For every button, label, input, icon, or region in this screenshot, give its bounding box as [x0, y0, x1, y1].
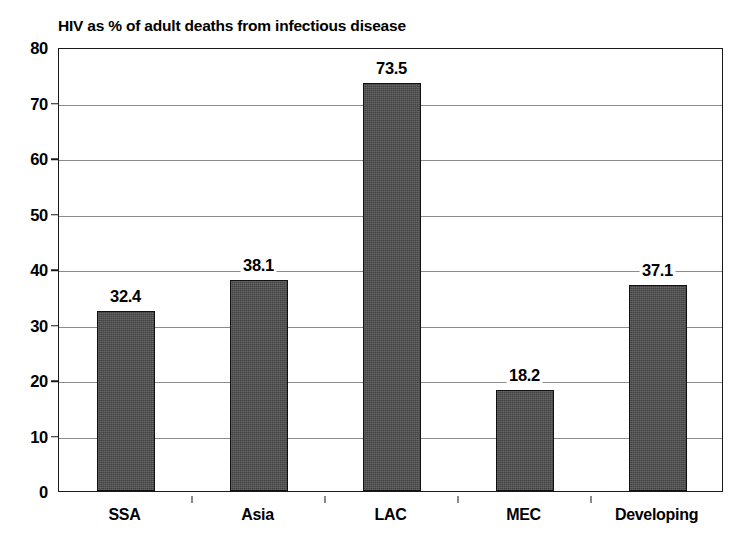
plot-area: 32.438.173.518.237.1 [58, 48, 723, 492]
bar [97, 311, 155, 491]
y-axis-tick-label: 30 [30, 316, 48, 335]
y-axis-tick-mark [51, 436, 59, 438]
x-axis-tick-label: MEC [506, 506, 541, 524]
chart-title: HIV as % of adult deaths from infectious… [58, 17, 406, 35]
y-axis: 80706050403020100 [0, 48, 48, 492]
x-axis: SSAAsiaLACMECDeveloping [58, 496, 723, 536]
x-axis-tick-label: LAC [375, 506, 407, 524]
bar-chart-figure: HIV as % of adult deaths from infectious… [0, 0, 734, 537]
bar [496, 390, 554, 491]
bar-value-label: 18.2 [506, 366, 543, 385]
y-axis-tick-label: 50 [30, 205, 48, 224]
y-axis-tick-mark [51, 103, 59, 105]
bar-value-label: 73.5 [373, 59, 410, 78]
y-axis-tick-label: 0 [39, 483, 48, 502]
y-axis-tick-label: 20 [30, 372, 48, 391]
y-axis-tick-mark [51, 214, 59, 216]
y-axis-tick-label: 10 [30, 427, 48, 446]
y-axis-tick-label: 70 [30, 94, 48, 113]
x-axis-tick-label: Developing [615, 506, 698, 524]
y-axis-tick-label: 80 [30, 39, 48, 58]
bar [363, 83, 421, 491]
y-axis-tick-label: 60 [30, 150, 48, 169]
x-axis-tick-mark [457, 496, 459, 503]
y-axis-tick-mark [51, 380, 59, 382]
y-axis-tick-mark [51, 325, 59, 327]
bar [629, 285, 687, 491]
y-axis-tick-label: 40 [30, 261, 48, 280]
bar-value-label: 38.1 [240, 256, 277, 275]
x-axis-tick-label: Asia [241, 506, 274, 524]
bar [230, 280, 288, 491]
bar-value-label: 32.4 [107, 287, 144, 306]
y-axis-tick-mark [51, 269, 59, 271]
x-axis-tick-mark [590, 496, 592, 503]
x-axis-tick-label: SSA [109, 506, 141, 524]
bar-value-label: 37.1 [639, 261, 676, 280]
x-axis-tick-mark [324, 496, 326, 503]
x-axis-tick-mark [191, 496, 193, 503]
y-axis-tick-mark [51, 158, 59, 160]
